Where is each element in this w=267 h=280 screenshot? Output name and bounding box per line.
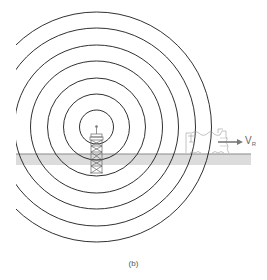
wavefront-ring [0, 12, 212, 242]
velocity-symbol: V [245, 135, 252, 146]
wavefront-ring [0, 28, 196, 226]
figure-caption: (b) [0, 259, 267, 268]
radio-tower-icon [90, 125, 103, 173]
velocity-subscript: R [252, 141, 256, 147]
velocity-arrow-icon [218, 138, 243, 146]
velocity-label: VR [245, 135, 256, 147]
vehicle-icon [186, 129, 229, 153]
concentric-wavefronts [0, 12, 212, 242]
figure-svg [0, 0, 267, 280]
